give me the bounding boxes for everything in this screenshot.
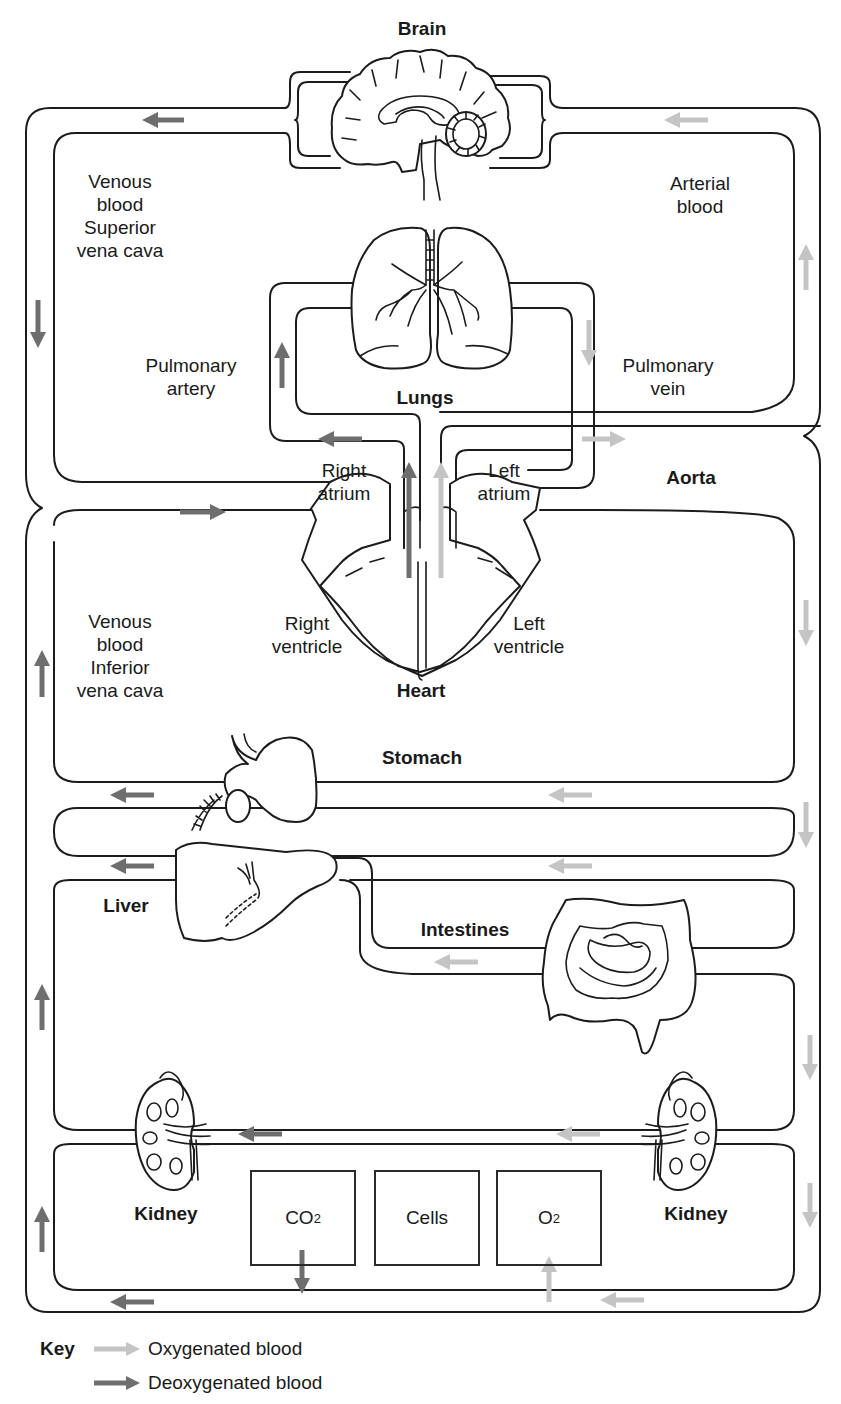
text-line: Venous xyxy=(60,170,180,193)
text-line: ventricle xyxy=(484,635,574,658)
text-line: Right xyxy=(262,612,352,635)
pulmonary-artery-label: Pulmonary artery xyxy=(136,354,246,400)
legend-oxygenated: Key Oxygenated blood xyxy=(40,1338,302,1360)
text-line: ventricle xyxy=(262,635,352,658)
text-line: atrium xyxy=(464,482,544,505)
intestines-illustration xyxy=(543,899,696,1054)
lungs-label: Lungs xyxy=(390,386,460,409)
o2-text: O xyxy=(538,1207,553,1229)
text-line: Superior xyxy=(60,216,180,239)
legend-label: Oxygenated blood xyxy=(148,1338,302,1360)
co2-subscript: 2 xyxy=(314,1211,321,1226)
text-line: vena cava xyxy=(60,679,180,702)
stomach-label: Stomach xyxy=(372,746,472,769)
text-line: Inferior xyxy=(60,656,180,679)
text-line: Left xyxy=(464,459,544,482)
o2-subscript: 2 xyxy=(553,1211,560,1226)
text-line: vena cava xyxy=(60,239,180,262)
text-line: atrium xyxy=(304,482,384,505)
liver-label: Liver xyxy=(96,894,156,917)
kidney-right-label: Kidney xyxy=(654,1202,738,1225)
liver-illustration xyxy=(176,843,337,941)
oxygenated-arrow-icon xyxy=(92,1341,144,1357)
text-line: vein xyxy=(613,377,723,400)
lungs-illustration xyxy=(352,228,513,369)
co2-text: CO xyxy=(285,1207,314,1229)
text-line: Left xyxy=(484,612,574,635)
legend-deoxygenated: Deoxygenated blood xyxy=(40,1372,322,1394)
venous-superior-label: Venous blood Superior vena cava xyxy=(60,170,180,262)
legend-title: Key xyxy=(40,1338,92,1360)
text-line: blood xyxy=(60,633,180,656)
legend-label: Deoxygenated blood xyxy=(148,1372,322,1394)
left-atrium-label: Left atrium xyxy=(464,459,544,505)
aorta-label: Aorta xyxy=(656,466,726,489)
venous-inferior-label: Venous blood Inferior vena cava xyxy=(60,610,180,702)
right-ventricle-label: Right ventricle xyxy=(262,612,352,658)
intestines-label: Intestines xyxy=(410,918,520,941)
heart-label: Heart xyxy=(386,679,456,702)
arterial-blood-label: Arterial blood xyxy=(655,172,745,218)
co2-box: CO2 xyxy=(250,1170,356,1266)
brain-illustration xyxy=(332,50,510,200)
text-line: Right xyxy=(304,459,384,482)
brain-label: Brain xyxy=(392,17,452,40)
left-ventricle-label: Left ventricle xyxy=(484,612,574,658)
cells-box: Cells xyxy=(374,1170,480,1266)
text-line: Pulmonary xyxy=(613,354,723,377)
text-line: blood xyxy=(655,195,745,218)
o2-box: O2 xyxy=(496,1170,602,1266)
deoxygenated-arrow-icon xyxy=(92,1375,144,1391)
kidney-left-label: Kidney xyxy=(124,1202,208,1225)
text-line: Arterial xyxy=(655,172,745,195)
right-atrium-label: Right atrium xyxy=(304,459,384,505)
text-line: Venous xyxy=(60,610,180,633)
pulmonary-vein-label: Pulmonary vein xyxy=(613,354,723,400)
text-line: blood xyxy=(60,193,180,216)
text-line: artery xyxy=(136,377,246,400)
text-line: Pulmonary xyxy=(136,354,246,377)
